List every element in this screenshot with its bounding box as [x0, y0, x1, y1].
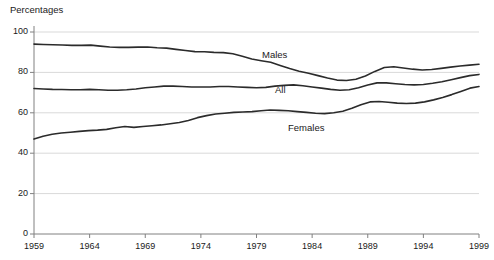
x-tick-label: 1989 [348, 241, 388, 251]
y-tick-label: 100 [2, 26, 28, 36]
x-tick-label: 1969 [125, 241, 165, 251]
gridlines [34, 32, 479, 194]
x-tick-marks [34, 234, 479, 238]
series-lines [34, 44, 479, 139]
y-tick-label: 0 [2, 228, 28, 238]
y-tick-label: 20 [2, 188, 28, 198]
x-tick-label: 1974 [181, 241, 221, 251]
series-label-males: Males [262, 49, 287, 60]
x-tick-label: 1984 [292, 241, 332, 251]
x-tick-label: 1979 [237, 241, 277, 251]
x-tick-label: 1994 [403, 241, 443, 251]
y-tick-label: 60 [2, 107, 28, 117]
y-tick-label: 80 [2, 66, 28, 76]
y-tick-label: 40 [2, 147, 28, 157]
x-tick-label: 1999 [459, 241, 494, 251]
series-label-all: All [275, 84, 286, 95]
y-tick-marks [30, 32, 34, 234]
x-tick-label: 1964 [70, 241, 110, 251]
series-label-females: Females [288, 122, 324, 133]
x-tick-label: 1959 [14, 241, 54, 251]
